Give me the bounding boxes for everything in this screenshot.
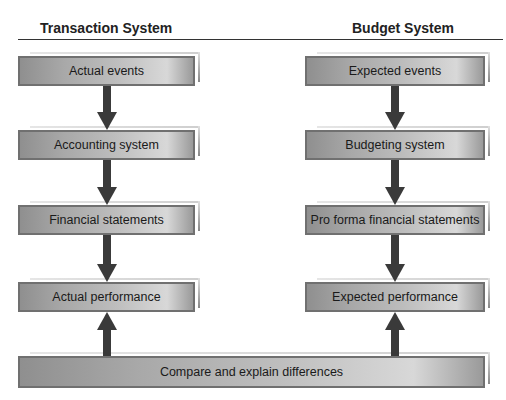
arrow-down-icon xyxy=(97,86,117,130)
box-compare-differences: Compare and explain differences xyxy=(18,356,485,388)
box-label: Budgeting system xyxy=(345,138,444,152)
arrow-down-icon xyxy=(385,235,405,282)
box-label: Financial statements xyxy=(49,213,164,227)
box-label: Actual performance xyxy=(52,290,160,304)
arrow-up-icon xyxy=(97,312,117,356)
box-label: Expected performance xyxy=(332,290,458,304)
arrow-down-icon xyxy=(97,160,117,205)
box-pro-forma-statements: Pro forma financial statements xyxy=(305,205,485,235)
box-actual-events: Actual events xyxy=(18,56,195,86)
transaction-system-title: Transaction System xyxy=(40,20,172,36)
box-accounting-system: Accounting system xyxy=(18,130,195,160)
box-financial-statements: Financial statements xyxy=(18,205,195,235)
arrow-down-icon xyxy=(97,235,117,282)
box-label: Compare and explain differences xyxy=(160,365,343,379)
header-rule xyxy=(18,39,503,40)
box-expected-events: Expected events xyxy=(305,56,485,86)
box-label: Actual events xyxy=(69,64,144,78)
budget-system-title: Budget System xyxy=(352,20,454,36)
box-expected-performance: Expected performance xyxy=(305,282,485,312)
arrow-down-icon xyxy=(385,160,405,205)
box-label: Expected events xyxy=(349,64,441,78)
arrow-up-icon xyxy=(385,312,405,356)
box-actual-performance: Actual performance xyxy=(18,282,195,312)
box-label: Accounting system xyxy=(54,138,159,152)
box-budgeting-system: Budgeting system xyxy=(305,130,485,160)
arrow-down-icon xyxy=(385,86,405,130)
box-label: Pro forma financial statements xyxy=(311,213,480,227)
